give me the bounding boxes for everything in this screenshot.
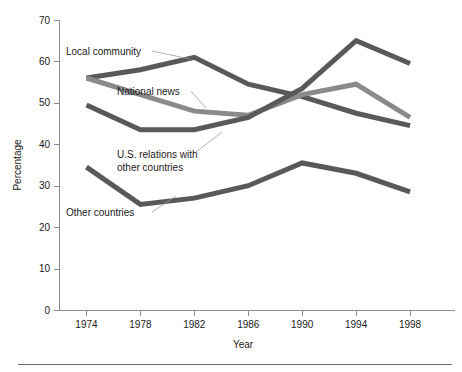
x-tick-label: 1974: [75, 319, 98, 330]
x-tick-label: 1978: [129, 319, 152, 330]
y-tick-label: 10: [39, 263, 51, 274]
line-chart: 010203040506070 197419781982198619901994…: [0, 0, 462, 372]
y-tick-label: 50: [39, 97, 51, 108]
annotation-leader-line: [152, 51, 190, 59]
y-tick-label: 60: [39, 56, 51, 67]
chart-canvas: 010203040506070 197419781982198619901994…: [0, 0, 462, 372]
x-tick-label: 1994: [345, 319, 368, 330]
annotation-leader-line: [191, 91, 206, 108]
annotation-label: National news: [117, 86, 180, 97]
y-tick-label: 0: [44, 305, 50, 316]
x-axis-title: Year: [233, 339, 254, 350]
series-lines: [86, 41, 410, 205]
annotation-label: other countries: [117, 162, 183, 173]
annotation-label: Local community: [66, 46, 141, 57]
x-tick-label: 1998: [399, 319, 422, 330]
annotation-label: U.S. relations with: [117, 149, 198, 160]
x-tick-label: 1982: [183, 319, 206, 330]
x-tick-label: 1990: [291, 319, 314, 330]
x-axis-ticks: 1974197819821986199019941998: [75, 311, 421, 331]
y-tick-label: 30: [39, 180, 51, 191]
y-tick-label: 20: [39, 222, 51, 233]
y-axis-ticks: 010203040506070: [39, 15, 60, 316]
annotation-label: Other countries: [66, 207, 134, 218]
y-tick-label: 40: [39, 139, 51, 150]
annotation-leader-line: [196, 132, 222, 152]
y-tick-label: 70: [39, 15, 51, 26]
y-axis-title: Percentage: [12, 139, 23, 191]
x-tick-label: 1986: [237, 319, 260, 330]
